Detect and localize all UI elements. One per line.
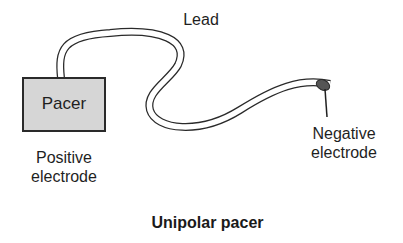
negative-electrode-label-line1: Negative [294,124,394,143]
negative-electrode-pointer [325,89,327,117]
pacer-label: Pacer [24,94,104,114]
lead-label-text: Lead [183,11,219,28]
lead-label: Lead [176,10,226,29]
positive-electrode-label-line2: electrode [14,167,114,186]
negative-electrode-label: Negative electrode [294,124,394,162]
pacer-box: Pacer [22,77,106,132]
diagram-title: Unipolar pacer [120,214,295,232]
positive-electrode-label: Positive electrode [14,148,114,186]
positive-electrode-label-line1: Positive [14,148,114,167]
negative-electrode-label-line2: electrode [294,143,394,162]
